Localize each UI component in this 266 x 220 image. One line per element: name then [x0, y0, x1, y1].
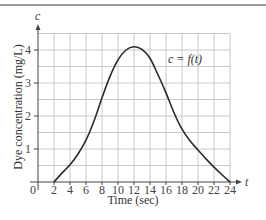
y-tick-label: 2 — [25, 109, 31, 123]
x-tick-label: 16 — [160, 183, 172, 197]
x-axis-variable: t — [245, 175, 249, 189]
x-tick-label: 0 — [30, 183, 36, 197]
x-axis-arrow-icon — [236, 180, 242, 185]
x-tick-label: 2 — [51, 183, 57, 197]
y-axis-title: Dye concentration (mg/L) — [11, 44, 25, 169]
y-tick-label: 3 — [25, 76, 31, 90]
x-tick-label: 18 — [176, 183, 188, 197]
x-tick-label: 6 — [83, 183, 89, 197]
y-tick-label: 1 — [25, 142, 31, 156]
curve-label: c = f(t) — [168, 52, 202, 66]
x-tick-label: 8 — [99, 183, 105, 197]
x-tick-label: 4 — [67, 183, 73, 197]
x-tick-label: 22 — [208, 183, 220, 197]
y-tick-labels: 1234 — [25, 43, 38, 156]
x-axis-title: Time (sec) — [107, 193, 158, 207]
x-tick-label: 20 — [192, 183, 204, 197]
y-tick-label: 4 — [25, 43, 31, 57]
dye-concentration-chart: 024681012141618202224 1234 c t c = f(t) … — [0, 0, 266, 220]
y-axis-variable: c — [35, 9, 41, 23]
y-axis-arrow-icon — [36, 24, 41, 30]
x-tick-label: 24 — [224, 183, 236, 197]
